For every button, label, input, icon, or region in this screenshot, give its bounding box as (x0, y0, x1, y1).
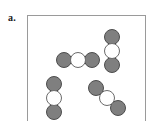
molecule-bottom-left (28, 16, 145, 121)
shaded-atom (46, 104, 62, 120)
open-atom (46, 90, 62, 106)
shaded-atom (110, 100, 126, 116)
open-atom (70, 52, 86, 68)
simulation-box (27, 15, 146, 121)
shaded-atom (46, 76, 62, 92)
open-atom (104, 43, 120, 59)
molecule-middle-left (28, 16, 145, 121)
molecule-bottom-right (28, 16, 145, 121)
molecules-layer (28, 16, 145, 121)
figure-panel: a. (0, 0, 158, 121)
panel-label: a. (8, 12, 16, 24)
shaded-atom (84, 52, 100, 68)
open-atom (99, 90, 115, 106)
shaded-atom (104, 29, 120, 45)
shaded-atom (88, 80, 104, 96)
molecule-top-right (28, 16, 145, 121)
shaded-atom (56, 52, 72, 68)
shaded-atom (104, 57, 120, 73)
